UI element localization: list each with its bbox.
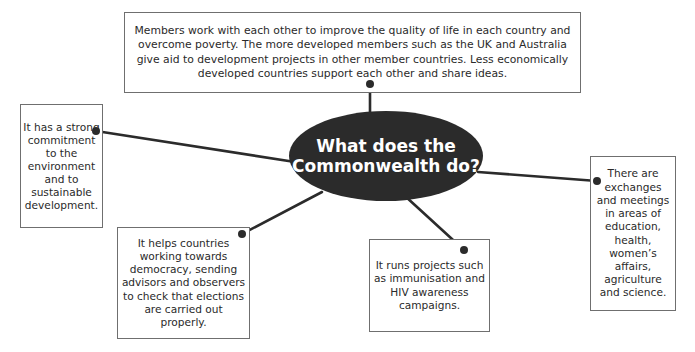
connector-dot-top [366,80,374,88]
connector-dot-left [92,127,100,135]
connector-dot-bottom-left [238,230,246,238]
connector-dots-layer [0,0,695,352]
connector-dot-right [593,177,601,185]
connector-dot-bottom-center [460,246,468,254]
